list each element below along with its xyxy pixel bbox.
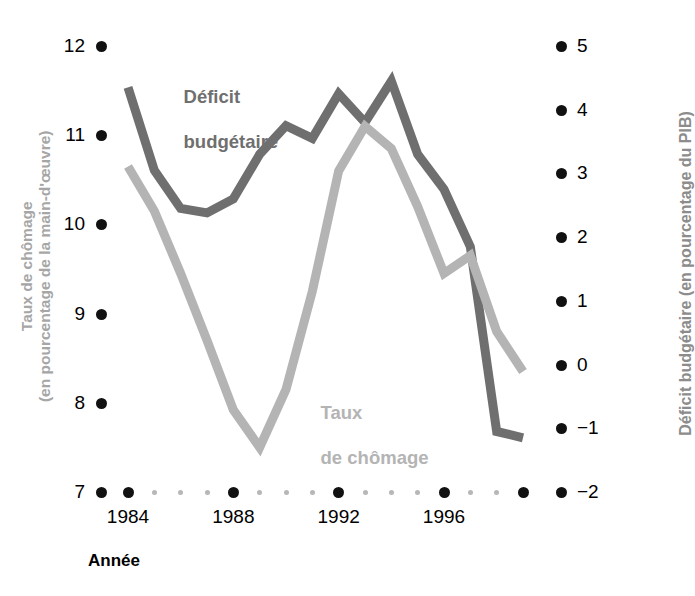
y-axis-right-title: Déficit budgétaire (en pourcentage du PI…	[677, 108, 695, 438]
series-label-chomage-line2: de chômage	[321, 447, 429, 468]
x-axis-title: Année	[88, 551, 140, 571]
series-label-taux-de-chomage: Taux de chômage	[300, 379, 429, 492]
y-axis-left-title: Taux de chômage (en pourcentage de la ma…	[18, 126, 55, 406]
series-label-deficit-line1: Déficit	[184, 86, 241, 107]
y-axis-left-title-line2: (en pourcentage de la main-d'œuvre)	[36, 131, 53, 403]
series-label-deficit-line2: budgétaire	[184, 131, 279, 152]
series-label-deficit-budgetaire: Déficit budgétaire	[163, 63, 278, 176]
series-label-chomage-line1: Taux	[321, 402, 363, 423]
y-axis-left-title-line1: Taux de chômage	[18, 201, 35, 331]
